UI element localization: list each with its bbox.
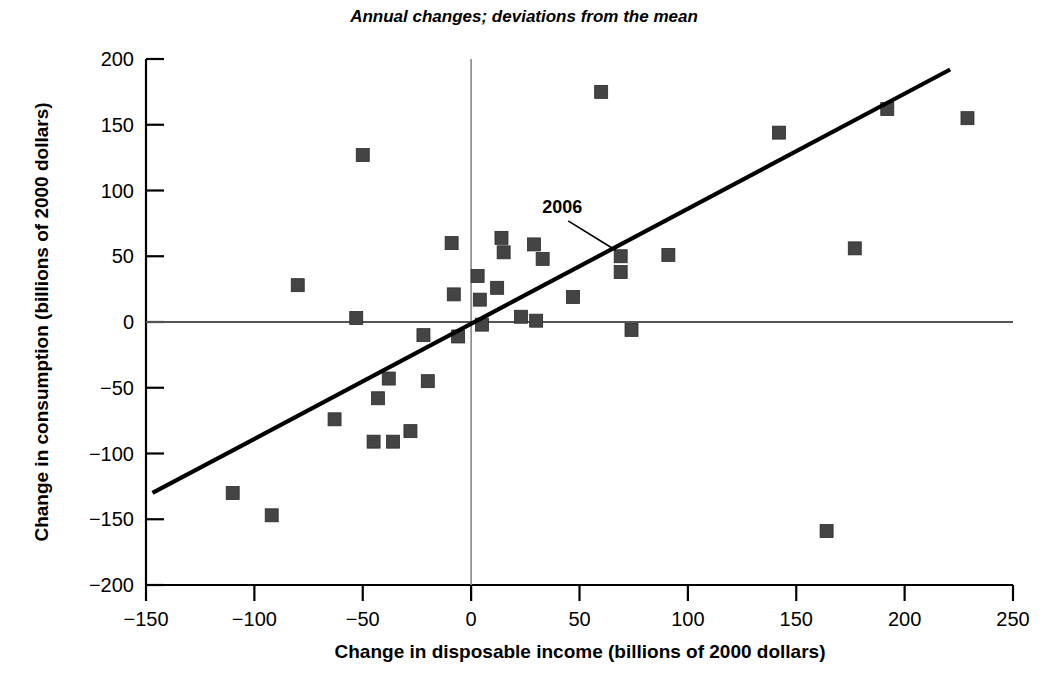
data-point-marker xyxy=(497,246,510,259)
y-tick-label: 50 xyxy=(112,245,134,267)
data-point-marker xyxy=(514,310,527,323)
data-point-marker xyxy=(772,126,785,139)
data-point-marker xyxy=(961,112,974,125)
data-point-marker xyxy=(527,238,540,251)
data-point-marker xyxy=(567,291,580,304)
data-point-marker xyxy=(662,248,675,261)
data-point-marker xyxy=(226,486,239,499)
y-tick-label: −200 xyxy=(89,574,134,596)
y-tick-label: 0 xyxy=(123,311,134,333)
y-tick-label: −100 xyxy=(89,443,134,465)
data-point-marker xyxy=(421,375,434,388)
x-tick-label: 50 xyxy=(568,608,590,630)
x-tick-label: 150 xyxy=(780,608,813,630)
y-tick-label: −150 xyxy=(89,508,134,530)
y-tick-label: 100 xyxy=(101,180,134,202)
data-point-marker xyxy=(404,425,417,438)
x-tick-label: −150 xyxy=(123,608,168,630)
data-point-marker xyxy=(328,413,341,426)
data-point-marker xyxy=(495,231,508,244)
data-point-marker xyxy=(265,509,278,522)
data-point-marker xyxy=(367,435,380,448)
y-tick-label: 150 xyxy=(101,114,134,136)
chart-title: Annual changes; deviations from the mean xyxy=(349,7,698,26)
x-tick-label: 100 xyxy=(671,608,704,630)
data-point-marker xyxy=(595,85,608,98)
x-tick-label: 250 xyxy=(996,608,1029,630)
y-tick-label: −50 xyxy=(100,377,134,399)
scatter-chart-figure: Annual changes; deviations from the mean… xyxy=(0,0,1049,684)
data-point-marker xyxy=(614,266,627,279)
data-point-marker xyxy=(356,149,369,162)
annotation-label-2006: 2006 xyxy=(542,197,582,217)
data-point-marker xyxy=(614,250,627,263)
x-tick-label: 0 xyxy=(466,608,477,630)
data-point-marker xyxy=(471,269,484,282)
x-tick-label: −100 xyxy=(232,608,277,630)
data-point-marker xyxy=(473,293,486,306)
data-point-marker xyxy=(371,392,384,405)
data-point-marker xyxy=(417,329,430,342)
data-point-marker xyxy=(536,252,549,265)
chart-canvas: Annual changes; deviations from the mean… xyxy=(0,0,1049,684)
data-point-marker xyxy=(447,288,460,301)
data-point-marker xyxy=(530,314,543,327)
data-point-marker xyxy=(382,372,395,385)
data-point-marker xyxy=(350,312,363,325)
data-point-marker xyxy=(848,242,861,255)
y-tick-label: 200 xyxy=(101,48,134,70)
data-point-marker xyxy=(820,525,833,538)
data-point-marker xyxy=(291,279,304,292)
y-axis-title: Change in consumption (billions of 2000 … xyxy=(31,102,52,541)
data-point-marker xyxy=(445,237,458,250)
x-tick-label: 200 xyxy=(888,608,921,630)
data-point-marker xyxy=(387,435,400,448)
data-point-marker xyxy=(625,323,638,336)
x-axis-title: Change in disposable income (billions of… xyxy=(335,641,826,662)
x-tick-label: −50 xyxy=(346,608,380,630)
data-point-marker xyxy=(491,281,504,294)
